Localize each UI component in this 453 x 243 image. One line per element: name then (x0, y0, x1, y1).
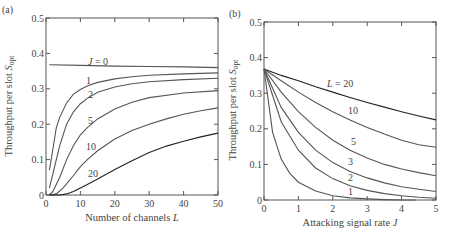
y-tick-label: 0.3 (250, 88, 263, 99)
x-tick-label: 50 (213, 198, 223, 209)
y-tick-label: 0 (257, 195, 262, 206)
y-tick-label: 0.5 (32, 13, 45, 24)
y-tick-label: 0.1 (32, 154, 45, 165)
curve-label: 5 (351, 136, 356, 147)
y-tick-label: 0.4 (250, 52, 263, 63)
curve-j10 (49, 108, 218, 195)
plot-frame (46, 18, 218, 195)
x-tick-label: 10 (75, 198, 85, 209)
curve-label: 1 (348, 186, 353, 197)
x-tick-label: 0 (262, 203, 267, 214)
x-tick-label: 5 (434, 203, 439, 214)
x-tick-label: 1 (296, 203, 301, 214)
curve-label: 2 (88, 89, 93, 100)
curve-label: 10 (348, 105, 358, 116)
curve-label: 1 (86, 75, 91, 86)
curve-j20 (49, 133, 218, 195)
y-tick-label: 0.1 (250, 159, 263, 170)
x-axis-label: Attacking signal rate J (303, 217, 399, 228)
y-tick-label: 0 (39, 190, 44, 201)
y-axis-label: Throughput per slot Sopt (3, 55, 16, 157)
panel-label: (b) (229, 8, 241, 20)
curve-label: 20 (88, 168, 98, 179)
x-tick-label: 3 (365, 203, 370, 214)
y-tick-label: 0.2 (32, 119, 45, 130)
curve-label: J = 0 (88, 56, 108, 67)
x-tick-label: 30 (144, 198, 154, 209)
y-tick-label: 0.5 (250, 17, 263, 28)
curve-label: 5 (88, 115, 93, 126)
y-tick-label: 0.3 (32, 83, 45, 94)
y-axis-label: Throughput per slot Sopt (227, 59, 240, 161)
y-tick-label: 0.4 (32, 48, 45, 59)
y-tick-label: 0.2 (250, 123, 263, 134)
x-tick-label: 0 (44, 198, 49, 209)
x-tick-label: 4 (399, 203, 404, 214)
x-tick-label: 20 (110, 198, 120, 209)
x-tick-label: 2 (330, 203, 335, 214)
curve-label: 2 (348, 172, 353, 183)
curve-j0 (49, 65, 218, 68)
panel-label: (a) (2, 4, 13, 16)
figure: 0102030405000.10.20.30.40.5J = 01251020(… (0, 0, 453, 243)
curve-label: L = 20 (326, 78, 353, 89)
x-axis-label: Number of channels L (85, 212, 179, 223)
curve-j1 (49, 73, 218, 170)
chart-panel-b: 01234500.10.20.30.40.5L = 20105321(b)Att… (227, 8, 439, 228)
chart-panel-a: 0102030405000.10.20.30.40.5J = 01251020(… (2, 4, 223, 223)
curve-j2 (49, 78, 218, 188)
curve-label: 10 (86, 141, 96, 152)
curve-label: 3 (348, 156, 353, 167)
x-tick-label: 40 (179, 198, 189, 209)
curve-j5 (49, 91, 218, 195)
